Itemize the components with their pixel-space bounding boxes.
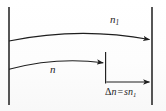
label-upper-curve-subscript: 1 bbox=[116, 19, 120, 27]
equals-operator: = bbox=[116, 86, 124, 97]
equation-rhs-subscript: 1 bbox=[133, 91, 136, 98]
figure-root: n1 n Δn=sn1 bbox=[0, 0, 166, 111]
upper-curved-arrow bbox=[9, 33, 150, 41]
label-upper-curve: n1 bbox=[110, 14, 119, 27]
figure-canvas bbox=[0, 0, 166, 111]
label-delta-n-equation: Δn=sn1 bbox=[105, 87, 136, 98]
lower-curved-arrow bbox=[9, 61, 103, 69]
label-lower-curve-variable: n bbox=[50, 63, 56, 75]
label-lower-curve: n bbox=[50, 64, 56, 75]
